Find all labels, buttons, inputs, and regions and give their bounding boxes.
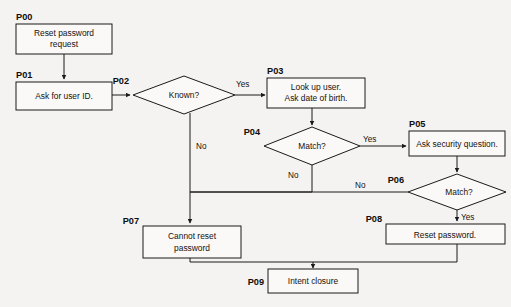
node-p02[interactable]: Known? P02 (113, 76, 235, 114)
node-p01-line-0: Ask for user ID. (35, 91, 93, 101)
edge-label-p06-no: No (355, 181, 366, 190)
edge-p07-p09 (190, 258, 313, 262)
node-p07-line-0: Cannot reset (168, 231, 217, 241)
node-p00-line-0: Reset password (34, 28, 94, 38)
node-p04[interactable]: Match? P04 (244, 127, 360, 165)
node-p02-id: P02 (113, 76, 129, 86)
node-p09[interactable]: Intent closure P09 (248, 269, 358, 293)
node-p05-line-0: Ask security question. (416, 139, 497, 149)
node-p03[interactable]: Look up user. Ask date of birth. P03 (267, 66, 365, 108)
node-p06-line-0: Match? (445, 187, 473, 197)
node-p04-line-0: Match? (298, 141, 326, 151)
node-p02-line-0: Known? (169, 90, 200, 100)
node-p08-id: P08 (366, 214, 382, 224)
edge-label-p04-yes: Yes (363, 135, 376, 144)
node-p00[interactable]: Reset password request P00 (16, 12, 112, 54)
node-p00-line-1: request (50, 39, 79, 49)
node-p00-id: P00 (16, 12, 32, 22)
edge-label-p02-no: No (196, 142, 207, 151)
node-p07[interactable]: Cannot reset password P07 (123, 216, 241, 258)
node-p07-line-1: password (174, 243, 210, 253)
node-p03-id: P03 (267, 66, 283, 76)
node-p05-id: P05 (409, 119, 425, 129)
node-p08[interactable]: Reset password. P08 (366, 214, 505, 244)
node-p03-line-1: Ask date of birth. (285, 93, 348, 103)
node-p07-id: P07 (123, 216, 139, 226)
flowchart-svg: Reset password request P00 Ask for user … (0, 0, 511, 307)
node-p03-line-0: Look up user. (291, 82, 341, 92)
flowchart-canvas: Reset password request P00 Ask for user … (0, 0, 511, 307)
edge-label-p06-yes: Yes (461, 213, 474, 222)
node-p09-line-0: Intent closure (288, 276, 339, 286)
node-p05[interactable]: Ask security question. P05 (409, 119, 505, 156)
node-p08-line-0: Reset password. (414, 230, 476, 240)
node-p09-id: P09 (248, 277, 264, 287)
node-p01-id: P01 (16, 70, 32, 80)
node-p04-id: P04 (244, 127, 261, 137)
edge-label-p02-yes: Yes (236, 80, 249, 89)
node-p06-id: P06 (388, 175, 404, 185)
edge-label-p04-no: No (288, 171, 299, 180)
edge-p08-p09 (313, 243, 457, 262)
